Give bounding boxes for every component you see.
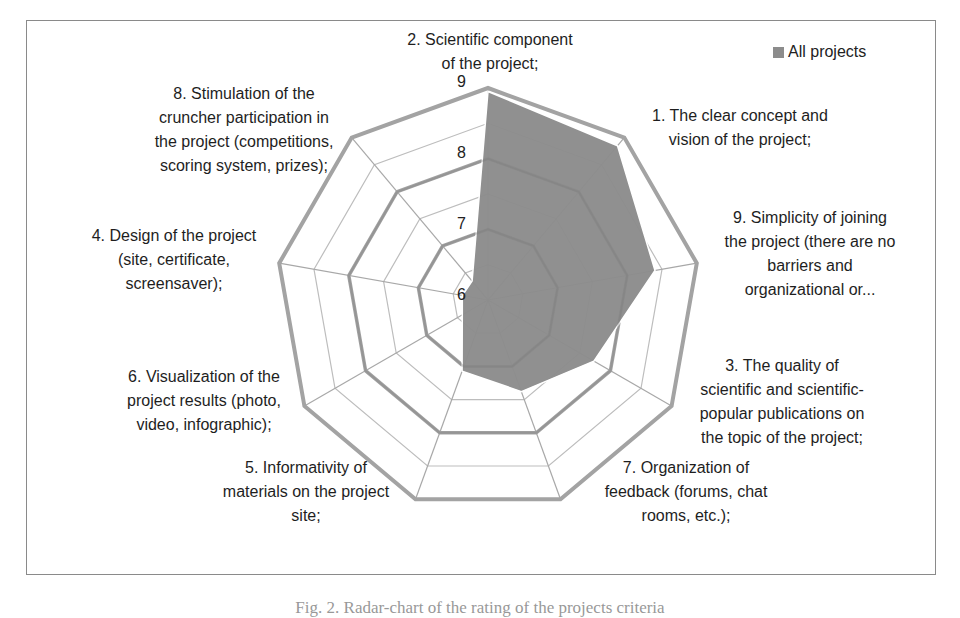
axis-label-line: the project (there are no [700, 230, 920, 254]
axis-label-7: 7. Organization of feedback (forums, cha… [576, 456, 796, 528]
axis-label-line: 8. Stimulation of the [124, 82, 364, 106]
series-area [462, 92, 655, 392]
axis-label-line: cruncher participation in [124, 106, 364, 130]
axis-label-5: 5. Informativity of materials on the pro… [196, 456, 416, 528]
axis-label-line: 3. The quality of [672, 354, 892, 378]
axis-label-line: scientific and scientific- [672, 378, 892, 402]
axis-spoke [352, 138, 488, 300]
axis-label-line: the project (competitions, [124, 130, 364, 154]
axis-label-line: (site, certificate, [64, 248, 284, 272]
axis-label-line: screensaver); [64, 272, 284, 296]
axis-label-9: 9. Simplicity of joining the project (th… [700, 206, 920, 302]
axis-label-line: materials on the project [196, 480, 416, 504]
legend-swatch-icon [773, 47, 784, 58]
axis-label-2: 2. Scientific component of the project; [380, 28, 600, 76]
axis-label-line: feedback (forums, chat [576, 480, 796, 504]
axis-label-3: 3. The quality of scientific and scienti… [672, 354, 892, 450]
axis-label-line: site; [196, 504, 416, 528]
legend: All projects [773, 43, 866, 61]
axis-label-6: 6. Visualization of the project results … [94, 365, 314, 437]
axis-spoke [304, 300, 488, 406]
axis-label-line: 1. The clear concept and [630, 104, 850, 128]
axis-label-line: 7. Organization of [576, 456, 796, 480]
axis-label-line: 6. Visualization of the [94, 365, 314, 389]
axis-label-line: 9. Simplicity of joining [700, 206, 920, 230]
axis-label-line: video, infographic); [94, 413, 314, 437]
axis-label-line: project results (photo, [94, 389, 314, 413]
axis-label-line: 5. Informativity of [196, 456, 416, 480]
axis-label-line: rooms, etc.); [576, 504, 796, 528]
tick-label-7: 7 [457, 215, 466, 233]
legend-label: All projects [788, 43, 866, 61]
axis-label-line: 4. Design of the project [64, 224, 284, 248]
axis-label-line: organizational or... [700, 278, 920, 302]
tick-label-6: 6 [457, 286, 466, 304]
axis-label-line: 2. Scientific component [380, 28, 600, 52]
axis-label-line: of the project; [380, 52, 600, 76]
axis-label-line: barriers and [700, 254, 920, 278]
tick-label-8: 8 [457, 144, 466, 162]
axis-label-line: popular publications on [672, 402, 892, 426]
axis-label-1: 1. The clear concept and vision of the p… [630, 104, 850, 152]
axis-label-4: 4. Design of the project (site, certific… [64, 224, 284, 296]
axis-label-8: 8. Stimulation of the cruncher participa… [124, 82, 364, 178]
axis-label-line: scoring system, prizes); [124, 154, 364, 178]
axis-label-line: vision of the project; [630, 128, 850, 152]
axis-label-line: the topic of the project; [672, 426, 892, 450]
figure-caption: Fig. 2. Radar-chart of the rating of the… [0, 598, 960, 618]
